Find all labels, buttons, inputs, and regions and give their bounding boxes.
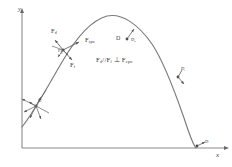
eq-third-sub: cpn [126,59,133,64]
physics-trajectory-figure: y x Fd Fcpn Ff Fg Fd//Fl ⊥ Fcpn D Db Di … [0,0,232,167]
drag-force-sub: d [55,30,57,35]
eq-second-sub: l [110,59,111,64]
mrv-sub: v [182,81,183,85]
force-relation-equation: Fd//Fl ⊥ Fcpn [96,57,133,64]
drag-force-label: Fd [51,28,57,35]
gravity-force-sub: g [61,50,63,54]
centripetal-force-label: Fcpn [85,37,94,44]
eq-perp: ⊥ [114,56,120,63]
x-axis-label: x [216,152,219,159]
urd-sub: b [134,39,135,43]
mid-right-d-label: Di [181,67,185,72]
trajectory-curve [22,16,196,148]
upper-right-d-sub-label: Db [131,38,136,43]
upper-right-d-label: D [116,35,120,41]
lower-left-d-label: D [38,99,41,104]
lower-right-d-label: D [205,140,208,145]
marker-lower-right [196,142,205,147]
mid-right-v-label: v [182,80,183,85]
friction-force-label: Ff [70,62,75,69]
y-axis-label: y [18,6,21,13]
force-vector-cluster-lower-left [22,90,49,119]
figure-canvas [0,0,232,167]
centripetal-force-sub: cpn [89,39,95,44]
gravity-force-label: Fg [58,48,62,54]
mrd-sub: i [184,68,185,72]
friction-force-sub: f [74,64,75,69]
